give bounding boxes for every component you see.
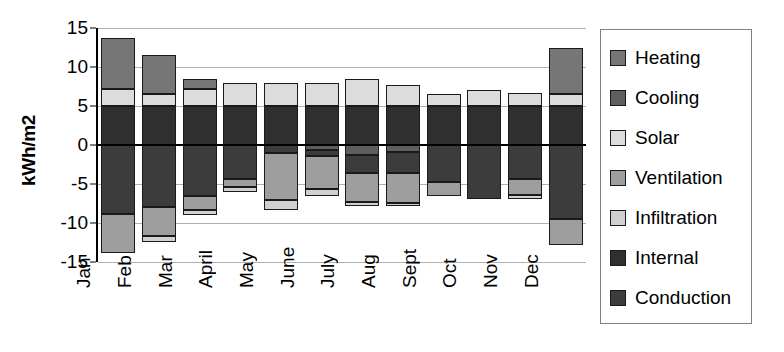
y-tick-label: -10: [61, 212, 88, 234]
x-axis-ticks: JanFebMarAprilMayJuneJulyAugSeptOctNovDe…: [96, 266, 584, 352]
bar-segment[interactable]: [264, 200, 298, 210]
bar-segment[interactable]: [101, 214, 135, 254]
bar-segment[interactable]: [467, 145, 501, 199]
legend-swatch-icon: [610, 250, 626, 266]
bar-segment[interactable]: [223, 145, 257, 179]
legend-item[interactable]: Heating: [610, 38, 751, 78]
bar-segment[interactable]: [305, 156, 339, 189]
bar-segment[interactable]: [345, 145, 379, 155]
bar-segment[interactable]: [305, 83, 339, 106]
bar-segment[interactable]: [264, 106, 298, 145]
chart-legend: HeatingCoolingSolarVentilationInfiltrati…: [600, 29, 752, 324]
legend-item[interactable]: Ventilation: [610, 158, 751, 198]
bar-segment[interactable]: [549, 219, 583, 245]
bar-segment[interactable]: [508, 195, 542, 199]
bar-segment[interactable]: [183, 210, 217, 215]
bar-segment[interactable]: [264, 83, 298, 106]
legend-label: Internal: [635, 247, 698, 269]
bar-segment[interactable]: [345, 202, 379, 206]
bar-segment[interactable]: [508, 145, 542, 179]
bar-segment[interactable]: [508, 179, 542, 195]
bar-segment[interactable]: [142, 236, 176, 241]
legend-swatch-icon: [610, 210, 626, 226]
bar-segment[interactable]: [142, 106, 176, 145]
bar-segment[interactable]: [345, 79, 379, 106]
bar-segment[interactable]: [427, 94, 461, 106]
legend-swatch-icon: [610, 130, 626, 146]
legend-item[interactable]: Internal: [610, 238, 751, 278]
bar-segment[interactable]: [549, 48, 583, 94]
bar-segment[interactable]: [142, 94, 176, 106]
bar-segment[interactable]: [549, 94, 583, 106]
bar-segment[interactable]: [386, 106, 420, 145]
legend-label: Solar: [635, 127, 679, 149]
bar-segment[interactable]: [386, 145, 420, 152]
bar-segment[interactable]: [183, 145, 217, 196]
y-axis-title: kWh/m2: [14, 60, 44, 240]
y-tick-label: -5: [71, 173, 88, 195]
legend-swatch-icon: [610, 50, 626, 66]
bar-segment[interactable]: [549, 106, 583, 145]
bar-segment[interactable]: [549, 145, 583, 219]
bar-segment[interactable]: [101, 89, 135, 106]
legend-item[interactable]: Cooling: [610, 78, 751, 118]
bar-segment[interactable]: [264, 145, 298, 153]
y-tick-label: 5: [77, 95, 88, 117]
bar-segment[interactable]: [183, 106, 217, 145]
bar-segment[interactable]: [427, 106, 461, 145]
legend-label: Conduction: [635, 287, 731, 309]
bar-segment[interactable]: [345, 106, 379, 145]
y-axis-ticks: 151050-5-10-15: [44, 0, 96, 352]
bar-segment[interactable]: [508, 93, 542, 106]
bar-segment[interactable]: [508, 106, 542, 145]
legend-item[interactable]: Solar: [610, 118, 751, 158]
bar-segment[interactable]: [101, 38, 135, 89]
legend-label: Heating: [635, 47, 701, 69]
y-tick-label: 15: [67, 17, 88, 39]
bar-segment[interactable]: [467, 90, 501, 106]
bar-segment[interactable]: [223, 106, 257, 145]
bar-segment[interactable]: [142, 207, 176, 236]
bar-segment[interactable]: [223, 179, 257, 188]
legend-item[interactable]: Infiltration: [610, 198, 751, 238]
bar-segment[interactable]: [345, 173, 379, 202]
y-tick-label: 10: [67, 56, 88, 78]
bar-segment[interactable]: [223, 187, 257, 192]
bar-segment[interactable]: [467, 106, 501, 145]
bar-segment[interactable]: [386, 152, 420, 173]
bar-segment[interactable]: [386, 85, 420, 106]
legend-swatch-icon: [610, 290, 626, 306]
bar-segment[interactable]: [427, 145, 461, 182]
bar-segment[interactable]: [183, 79, 217, 89]
bar-segment[interactable]: [142, 55, 176, 93]
bar-segment[interactable]: [386, 203, 420, 206]
bar-segment[interactable]: [264, 153, 298, 200]
bar-segment[interactable]: [345, 155, 379, 173]
x-tick-label: Dec: [521, 266, 607, 288]
bar-segment[interactable]: [305, 189, 339, 196]
legend-label: Infiltration: [635, 207, 717, 229]
zero-axis-line: [98, 144, 586, 146]
legend-swatch-icon: [610, 170, 626, 186]
bar-segment[interactable]: [183, 196, 217, 209]
legend-label: Ventilation: [635, 167, 723, 189]
bar-segment[interactable]: [223, 83, 257, 106]
plot-area: [96, 28, 586, 262]
bar-segment[interactable]: [305, 106, 339, 145]
y-tick-label: 0: [77, 134, 88, 156]
bar-segment[interactable]: [183, 89, 217, 106]
legend-item[interactable]: Conduction: [610, 278, 751, 318]
bar-segment[interactable]: [427, 182, 461, 197]
bar-segment[interactable]: [142, 145, 176, 207]
legend-label: Cooling: [635, 87, 699, 109]
bar-segment[interactable]: [101, 106, 135, 145]
legend-swatch-icon: [610, 90, 626, 106]
bar-segment[interactable]: [386, 173, 420, 203]
energy-balance-chart: kWh/m2 151050-5-10-15 JanFebMarAprilMayJ…: [0, 0, 784, 352]
bar-segment[interactable]: [101, 145, 135, 214]
